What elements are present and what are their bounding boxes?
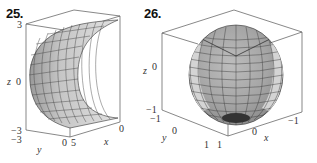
x-axis-label: x	[264, 133, 268, 143]
y-tick-mid: 0	[172, 126, 177, 136]
x-tick-left: 5	[71, 138, 76, 148]
sphere-surface	[189, 25, 283, 125]
x-tick-mid: 0	[252, 127, 257, 137]
figure-number: 26.	[144, 6, 161, 21]
z-axis-label: z	[143, 66, 147, 76]
z-axis-label: z	[7, 77, 11, 87]
half-cylinder-surface-plot	[0, 0, 157, 163]
figure-26: 26.	[140, 0, 317, 163]
y-tick-right: 0	[62, 138, 67, 148]
figure-25: 25.	[0, 0, 157, 163]
x-tick-right: −1	[288, 116, 299, 126]
y-tick-right: 1	[204, 140, 209, 150]
z-tick-top: 3	[17, 20, 22, 30]
z-tick-mid: 0	[152, 62, 157, 72]
x-tick-right: 0	[119, 124, 124, 134]
y-tick-left: −3	[11, 135, 22, 145]
y-axis-label: y	[162, 133, 166, 143]
z-tick-mid: 0	[16, 77, 21, 87]
y-axis-label: y	[37, 145, 41, 155]
x-axis-label: x	[104, 137, 108, 147]
sphere-surface-plot	[140, 0, 317, 163]
x-tick-left: 1	[217, 140, 222, 150]
y-tick-left: −1	[150, 114, 161, 124]
